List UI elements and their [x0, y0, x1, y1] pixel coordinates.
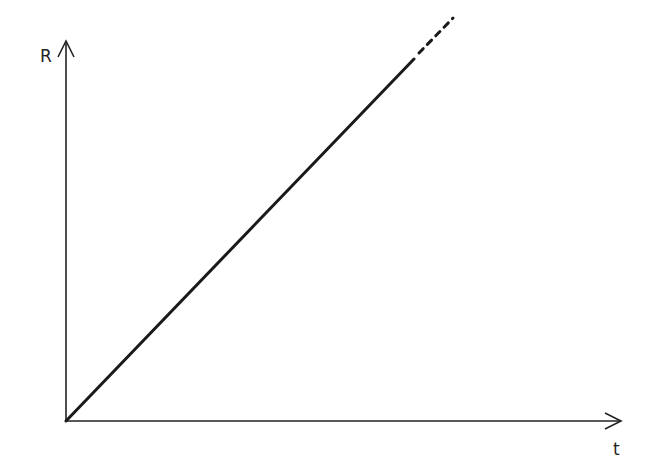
y-axis	[58, 41, 74, 421]
trend-line-dashed	[419, 18, 453, 53]
y-axis-label: R	[40, 46, 52, 66]
trend-line-solid	[66, 59, 414, 421]
x-axis-label: t	[613, 439, 620, 459]
x-axis	[66, 413, 621, 429]
diagram-canvas: R t	[0, 0, 653, 476]
